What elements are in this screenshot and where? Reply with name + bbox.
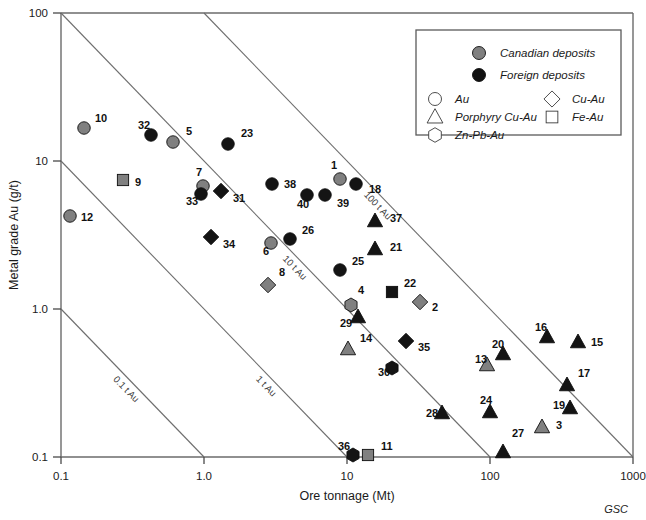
data-point-label: 12: [81, 211, 93, 223]
data-point-label: 40: [297, 198, 309, 210]
data-point-label: 33: [186, 195, 198, 207]
marker-square: [117, 174, 128, 185]
data-point-label: 23: [241, 127, 253, 139]
legend-entry[interactable]: Fe-Au: [546, 111, 604, 123]
y-axis-title: Metal grade Au (g/t): [7, 180, 21, 290]
legend-marker-square: [546, 111, 558, 123]
legend-marker-circle: [473, 69, 486, 82]
marker-circle: [266, 178, 279, 191]
data-point[interactable]: [334, 264, 347, 277]
marker-circle: [284, 233, 297, 246]
data-point-label: 39: [337, 197, 349, 209]
data-point[interactable]: [319, 189, 332, 202]
x-tick-label: 0.1: [53, 470, 69, 482]
data-point-label: 6: [263, 245, 269, 257]
data-point-label: 32: [138, 119, 150, 131]
data-point-label: 7: [196, 166, 202, 178]
data-point-label: 13: [475, 353, 487, 365]
data-point[interactable]: [334, 173, 347, 186]
legend: Canadian depositsForeign deposits AuPorp…: [416, 30, 621, 142]
data-point-label: 35: [418, 341, 430, 353]
data-point-label: 24: [480, 394, 493, 406]
data-point-label: 19: [553, 399, 565, 411]
y-tick-label: 1.0: [32, 303, 48, 315]
data-point-label: 30: [378, 366, 390, 378]
data-point-label: 1: [331, 159, 337, 171]
y-tick-label: 0.1: [32, 451, 48, 463]
marker-circle: [64, 210, 77, 223]
data-point-label: 9: [135, 176, 141, 188]
legend-label: Au: [454, 93, 470, 105]
data-point-label: 34: [223, 238, 236, 250]
data-point-label: 25: [352, 255, 364, 267]
marker-circle: [167, 136, 180, 149]
data-point-label: 31: [233, 192, 245, 204]
marker-square: [386, 286, 397, 297]
data-point[interactable]: [167, 136, 180, 149]
x-tick-label: 1.0: [196, 470, 212, 482]
x-tick-label: 10: [341, 470, 354, 482]
data-point[interactable]: [350, 178, 363, 191]
data-point-label: 21: [390, 241, 402, 253]
data-point-label: 27: [512, 427, 524, 439]
x-axis-title: Ore tonnage (Mt): [299, 489, 394, 503]
figure-root: 0.11.0101001000 100101.00.1 Ore tonnage …: [0, 0, 646, 520]
marker-circle: [334, 173, 347, 186]
data-point-label: 4: [358, 284, 365, 296]
legend-entry[interactable]: Cu-Au: [544, 91, 605, 107]
legend-marker-circle: [473, 47, 486, 60]
legend-marker-circle: [429, 93, 442, 106]
data-point-label: 17: [578, 367, 590, 379]
data-point-label: 8: [279, 266, 285, 278]
marker-square: [362, 449, 373, 460]
marker-circle: [350, 178, 363, 191]
data-point-label: 22: [404, 277, 416, 289]
marker-circle: [222, 138, 235, 151]
marker-hexagon: [345, 298, 357, 312]
data-point-label: 5: [186, 125, 192, 137]
legend-label: Fe-Au: [572, 111, 604, 123]
data-point-label: 36: [338, 440, 350, 452]
data-point-label: 28: [426, 407, 438, 419]
legend-label: Foreign deposits: [500, 69, 585, 81]
data-point[interactable]: [222, 138, 235, 151]
legend-label: Zn-Pb-Au: [454, 129, 505, 141]
data-point[interactable]: [78, 122, 91, 135]
data-point[interactable]: [284, 233, 297, 246]
scatter-plot: 0.11.0101001000 100101.00.1 Ore tonnage …: [0, 0, 646, 520]
data-point[interactable]: [266, 178, 279, 191]
data-point-label: 20: [492, 338, 504, 350]
y-tick-label: 10: [35, 155, 48, 167]
data-point-label: 26: [302, 224, 314, 236]
gsc-credit: GSC: [604, 503, 628, 515]
legend-marker-hexagon: [429, 128, 442, 143]
marker-circle: [319, 189, 332, 202]
legend-label: Cu-Au: [572, 93, 605, 105]
data-point-label: 15: [591, 336, 603, 348]
data-point[interactable]: [345, 298, 357, 312]
data-point-label: 29: [340, 317, 352, 329]
data-point-label: 16: [535, 321, 547, 333]
data-point-label: 2: [432, 301, 438, 313]
data-point[interactable]: [386, 286, 397, 297]
y-tick-label: 100: [29, 7, 48, 19]
data-point-label: 3: [556, 419, 562, 431]
data-point[interactable]: [117, 174, 128, 185]
data-point-label: 11: [381, 440, 393, 452]
data-point-label: 10: [95, 112, 107, 124]
x-tick-label: 1000: [620, 470, 646, 482]
data-point-label: 14: [360, 332, 373, 344]
marker-circle: [78, 122, 91, 135]
legend-label: Canadian deposits: [500, 47, 596, 59]
x-tick-label: 100: [480, 470, 499, 482]
data-point-label: 38: [284, 178, 296, 190]
data-point[interactable]: [64, 210, 77, 223]
legend-label: Porphyry Cu-Au: [455, 111, 537, 123]
data-point[interactable]: [362, 449, 373, 460]
marker-circle: [334, 264, 347, 277]
